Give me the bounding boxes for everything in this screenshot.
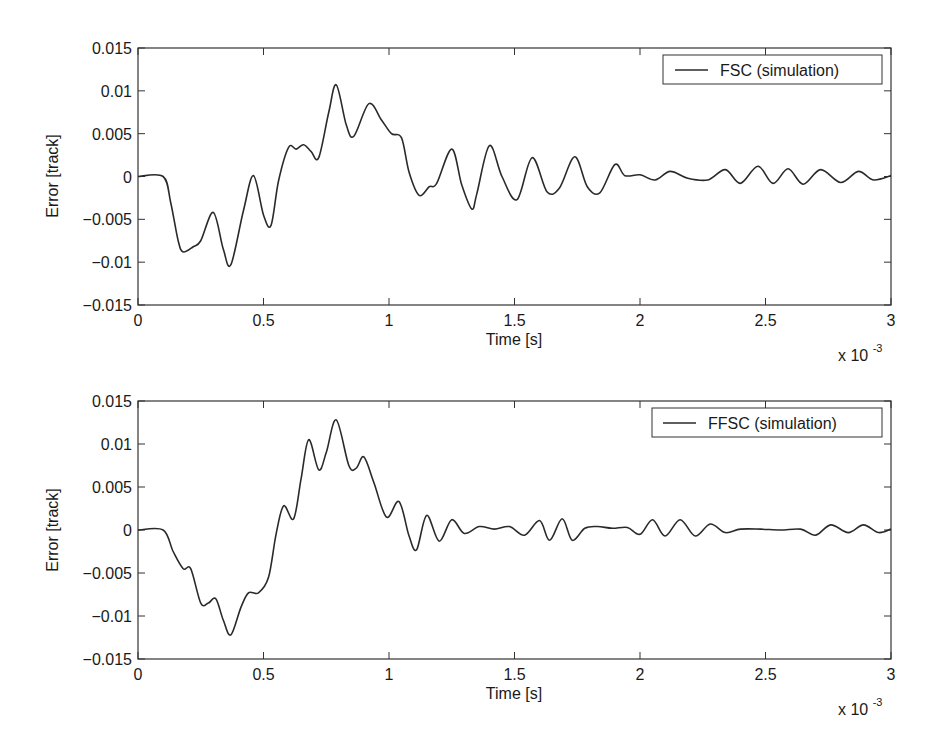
- y-tick-label: −0.005: [83, 565, 132, 582]
- y-tick-marks: [138, 48, 891, 305]
- series-line-ffsc: [138, 420, 891, 635]
- x-tick-label: 0.5: [252, 312, 274, 329]
- y-tick-label: 0.01: [101, 436, 132, 453]
- x-tick-label: 1: [385, 312, 394, 329]
- x-multiplier-exponent: -3: [873, 342, 883, 354]
- y-tick-labels: 0.0150.010.0050−0.005−0.01−0.015: [83, 40, 132, 314]
- y-tick-label: 0.005: [92, 126, 132, 143]
- y-axis-label: Error [track]: [44, 134, 61, 218]
- x-multiplier-base: x 10: [838, 347, 868, 364]
- y-tick-label: 0: [123, 169, 132, 186]
- y-tick-label: 0.01: [101, 83, 132, 100]
- x-axis-label: Time [s]: [486, 331, 542, 348]
- x-tick-label: 2: [636, 312, 645, 329]
- legend: FSC (simulation): [663, 55, 882, 84]
- x-tick-label: 1.5: [503, 666, 525, 683]
- x-multiplier-base: x 10: [838, 701, 868, 718]
- x-tick-marks: [138, 48, 891, 305]
- x-tick-label: 1.5: [503, 312, 525, 329]
- y-tick-label: 0.015: [92, 40, 132, 57]
- y-tick-labels: 0.0150.010.0050−0.005−0.01−0.015: [83, 393, 132, 668]
- x-tick-labels: 00.511.522.53: [134, 666, 896, 683]
- series-line-fsc: [138, 85, 891, 267]
- x-tick-label: 3: [887, 312, 896, 329]
- x-multiplier: x 10 -3: [838, 342, 882, 364]
- x-tick-label: 3: [887, 666, 896, 683]
- x-tick-labels: 00.511.522.53: [134, 312, 896, 329]
- x-tick-label: 0: [134, 666, 143, 683]
- chart-bottom: 0.0150.010.0050−0.005−0.01−0.015 00.511.…: [44, 393, 896, 718]
- y-tick-label: 0.015: [92, 393, 132, 410]
- legend: FFSC (simulation): [652, 408, 882, 437]
- x-multiplier: x 10 -3: [838, 696, 882, 718]
- x-tick-label: 2: [636, 666, 645, 683]
- y-tick-label: −0.015: [83, 651, 132, 668]
- y-tick-label: −0.01: [92, 254, 133, 271]
- legend-label: FFSC (simulation): [708, 415, 837, 432]
- x-multiplier-exponent: -3: [873, 696, 883, 708]
- x-tick-label: 2.5: [754, 312, 776, 329]
- legend-label: FSC (simulation): [720, 62, 839, 79]
- plot-area-frame: [138, 48, 891, 305]
- y-tick-label: 0.005: [92, 479, 132, 496]
- x-tick-label: 1: [385, 666, 394, 683]
- x-axis-label: Time [s]: [486, 685, 542, 702]
- x-tick-label: 0: [134, 312, 143, 329]
- y-tick-label: −0.01: [92, 608, 133, 625]
- chart-top: 0.0150.010.0050−0.005−0.01−0.015 00.511.…: [44, 40, 896, 364]
- x-tick-label: 2.5: [754, 666, 776, 683]
- y-tick-label: −0.005: [83, 211, 132, 228]
- x-tick-label: 0.5: [252, 666, 274, 683]
- figure: 0.0150.010.0050−0.005−0.01−0.015 00.511.…: [0, 0, 938, 751]
- y-axis-label: Error [track]: [44, 488, 61, 572]
- y-tick-label: −0.015: [83, 297, 132, 314]
- y-tick-label: 0: [123, 522, 132, 539]
